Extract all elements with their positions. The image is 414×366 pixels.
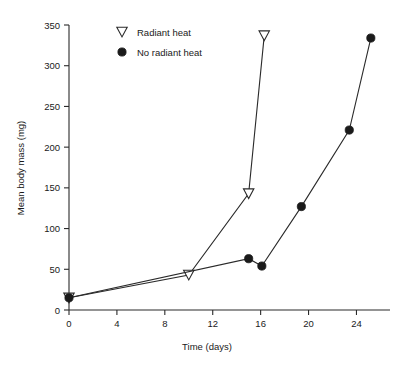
series-2 — [69, 34, 375, 298]
legend-label-1: Radiant heat — [137, 27, 191, 38]
y-tick-label: 50 — [49, 264, 60, 275]
x-axis-title: Time (days) — [182, 341, 232, 352]
chart-legend: Radiant heatNo radiant heat — [117, 27, 203, 58]
line-chart: 050100150200250300350 04812162024 Radian… — [0, 0, 414, 366]
data-point-marker-legend-2 — [118, 48, 126, 56]
x-tick-label: 8 — [162, 318, 167, 329]
series-line-1 — [69, 36, 264, 298]
data-point-marker-legend-1 — [117, 27, 127, 37]
data-point-marker-1-4 — [259, 31, 269, 41]
data-point-marker-2-3 — [258, 262, 266, 270]
series-line-2 — [69, 38, 371, 298]
y-tick-label: 100 — [44, 223, 60, 234]
x-tick-label: 12 — [207, 318, 218, 329]
data-point-marker-2-5 — [345, 126, 353, 134]
x-tick-label: 16 — [255, 318, 266, 329]
y-tick-label: 150 — [44, 182, 60, 193]
x-tick-label: 20 — [303, 318, 314, 329]
data-point-marker-2-2 — [245, 255, 253, 263]
y-axis-title: Mean body mass (mg) — [15, 121, 26, 216]
data-point-marker-2-6 — [367, 34, 375, 42]
x-tick-label: 24 — [351, 318, 362, 329]
axes — [69, 25, 390, 310]
data-point-marker-2-4 — [297, 202, 305, 210]
y-tick-label: 250 — [44, 101, 60, 112]
y-tick-label: 0 — [55, 305, 60, 316]
data-series-group — [64, 31, 375, 303]
legend-label-2: No radiant heat — [137, 47, 202, 58]
x-tick-label: 0 — [66, 318, 71, 329]
data-point-marker-1-3 — [243, 189, 253, 199]
y-tick-label: 200 — [44, 142, 60, 153]
y-axis-ticks: 050100150200250300350 — [44, 20, 69, 316]
x-tick-label: 4 — [114, 318, 119, 329]
y-tick-label: 300 — [44, 60, 60, 71]
series-1 — [64, 31, 270, 303]
data-point-marker-origin — [65, 294, 73, 302]
chart-container: 050100150200250300350 04812162024 Radian… — [0, 0, 414, 366]
y-tick-label: 350 — [44, 20, 60, 31]
x-axis-ticks: 04812162024 — [66, 310, 361, 329]
